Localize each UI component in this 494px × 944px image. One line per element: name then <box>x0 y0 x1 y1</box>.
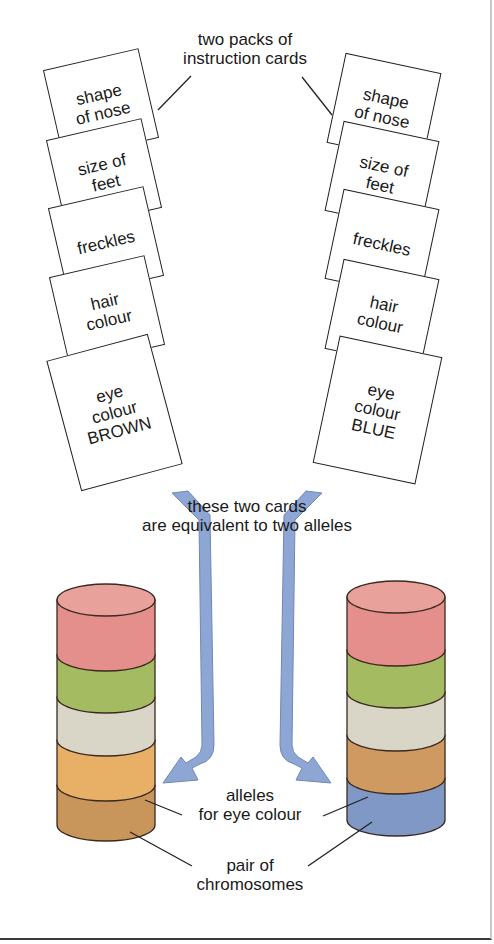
label-pair-of-chromosomes: pair of chromosomes <box>180 856 320 894</box>
leader-line-right-pack <box>302 77 332 115</box>
left-chromosome <box>57 584 155 841</box>
leader-line-left-pack <box>158 76 191 110</box>
label-equivalent-alleles: these two cards are equivalent to two al… <box>117 497 377 535</box>
right-chromosome <box>347 581 445 836</box>
label-two-packs: two packs of instruction cards <box>165 30 325 68</box>
label-alleles-eye-colour: alleles for eye colour <box>180 786 320 824</box>
